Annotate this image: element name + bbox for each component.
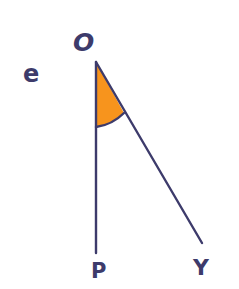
angle-figure [0,0,239,289]
ray-oy [96,62,202,243]
point-label-y: Y [193,257,209,279]
angle-diagram: O e P Y [0,0,239,289]
point-label-p: P [91,261,106,282]
vertex-label-o: O [73,30,94,55]
side-label-e: e [23,62,39,86]
